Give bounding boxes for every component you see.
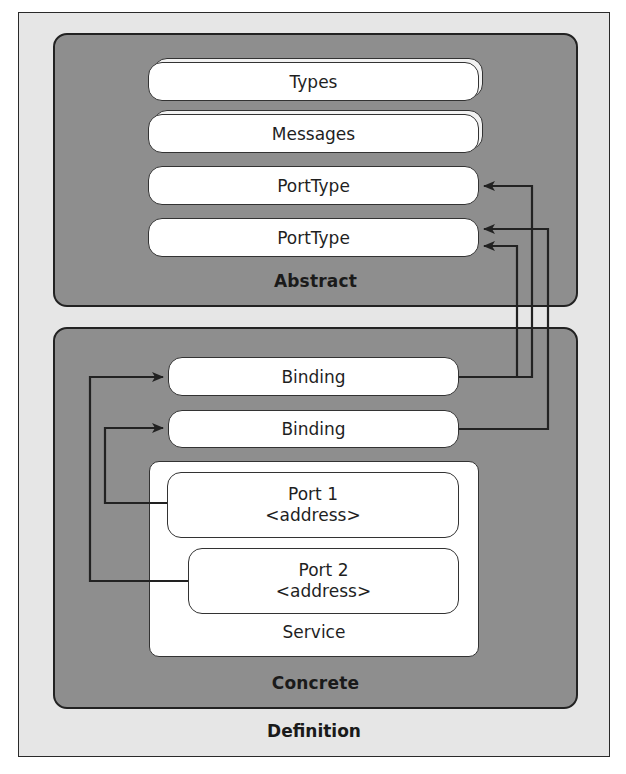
messages-box: Messages bbox=[148, 114, 479, 153]
port-address-2: <address> bbox=[276, 581, 371, 602]
porttype-box-1: PortType bbox=[148, 166, 479, 205]
types-label: Types bbox=[290, 72, 338, 92]
porttype-label-2: PortType bbox=[277, 228, 350, 248]
port-address-1: <address> bbox=[265, 505, 360, 526]
port-box-2: Port 2 <address> bbox=[188, 548, 459, 614]
porttype-box-2: PortType bbox=[148, 218, 479, 257]
binding-box-2: Binding bbox=[168, 410, 459, 448]
porttype-label-1: PortType bbox=[277, 176, 350, 196]
definition-label: Definition bbox=[18, 721, 610, 741]
binding-label-1: Binding bbox=[281, 367, 345, 387]
port-name-2: Port 2 bbox=[299, 560, 349, 581]
binding-label-2: Binding bbox=[281, 419, 345, 439]
concrete-label: Concrete bbox=[55, 673, 576, 693]
binding-box-1: Binding bbox=[168, 357, 459, 396]
service-label: Service bbox=[149, 622, 479, 642]
abstract-label: Abstract bbox=[55, 271, 576, 291]
types-box: Types bbox=[148, 62, 479, 101]
port-box-1: Port 1 <address> bbox=[167, 472, 459, 538]
port-name-1: Port 1 bbox=[288, 484, 338, 505]
messages-label: Messages bbox=[272, 124, 355, 144]
